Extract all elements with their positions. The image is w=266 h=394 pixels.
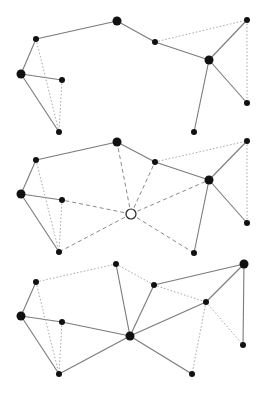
graph-node [17, 190, 26, 199]
edge-solid [62, 322, 130, 336]
edge-solid [21, 194, 59, 252]
edge-solid [21, 160, 36, 194]
edge-solid [21, 282, 36, 316]
edge-dotted [154, 285, 206, 302]
edge-solid [206, 264, 244, 302]
graph-node [151, 282, 157, 288]
graph-node [205, 176, 214, 185]
edge-solid [209, 180, 247, 223]
edge-dashed [131, 162, 155, 214]
graph-node [244, 220, 250, 226]
graph-node [33, 157, 39, 163]
graph-node [126, 332, 135, 341]
graph-node [205, 56, 214, 65]
edge-dashed [59, 214, 131, 252]
edge-solid [130, 336, 192, 374]
edge-solid [194, 60, 209, 132]
edge-solid [243, 264, 244, 345]
edge-solid [21, 74, 62, 80]
edge-dashed [131, 214, 194, 253]
graph-node [59, 197, 65, 203]
edge-solid [21, 194, 62, 200]
graph-node [113, 17, 122, 26]
graph-node [240, 342, 246, 348]
edge-dotted [36, 264, 116, 282]
edge-dotted [192, 302, 206, 374]
edge-solid [155, 42, 209, 60]
edge-solid [209, 20, 247, 60]
graph-node [191, 129, 197, 135]
graph-node [56, 371, 62, 377]
edge-solid [21, 74, 59, 132]
graph-node [152, 159, 158, 165]
graph-node [244, 17, 250, 23]
panel-2 [17, 138, 251, 257]
edge-solid [21, 316, 62, 322]
edge-solid [21, 39, 36, 74]
edge-solid [155, 162, 209, 180]
graph-node [17, 312, 26, 321]
edge-solid [36, 21, 117, 39]
hollow-hub-node [126, 209, 136, 219]
edge-solid [59, 336, 130, 374]
edge-dotted [36, 39, 59, 132]
edge-dashed [62, 200, 131, 214]
graph-node [191, 250, 197, 256]
panel-3 [17, 260, 249, 378]
graph-node [33, 279, 39, 285]
graph-node [244, 138, 250, 144]
edge-solid [36, 142, 117, 160]
network-diagram [0, 0, 266, 394]
graph-node [59, 319, 65, 325]
edge-dotted [206, 302, 243, 345]
edge-solid [209, 60, 247, 103]
graph-node [240, 260, 249, 269]
edge-solid [117, 21, 155, 42]
edge-dotted [59, 322, 62, 374]
edge-dotted [155, 20, 247, 42]
graph-node [33, 36, 39, 42]
edge-solid [116, 264, 130, 336]
edge-dotted [59, 80, 62, 132]
edge-solid [154, 264, 244, 285]
edge-solid [209, 141, 247, 180]
edge-dotted [36, 282, 59, 374]
edge-solid [130, 302, 206, 336]
graph-node [113, 138, 122, 147]
graph-node [189, 371, 195, 377]
edge-solid [194, 180, 209, 253]
graph-node [17, 70, 26, 79]
graph-node [113, 261, 119, 267]
panel-1 [17, 17, 251, 136]
graph-node [59, 77, 65, 83]
edge-solid [117, 142, 155, 162]
edge-dashed [131, 180, 209, 214]
graph-node [56, 249, 62, 255]
edge-dotted [36, 160, 59, 252]
edge-dotted [59, 200, 62, 252]
edge-solid [130, 285, 154, 336]
graph-node [152, 39, 158, 45]
graph-node [203, 299, 209, 305]
edge-solid [21, 316, 59, 374]
edge-dashed [117, 142, 131, 214]
edge-dotted [155, 141, 247, 162]
graph-node [56, 129, 62, 135]
graph-node [244, 100, 250, 106]
edge-dotted [116, 264, 154, 285]
